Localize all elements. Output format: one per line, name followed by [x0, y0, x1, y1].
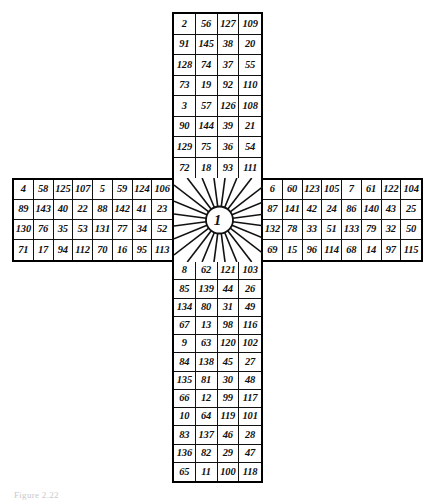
grid-cell-bottom-r3-c3: 31 — [218, 299, 240, 317]
grid-cell-top-r5-c4: 108 — [239, 96, 261, 117]
grid-cell-bottom-r10-c4: 28 — [239, 426, 261, 444]
grid-cell-left-r4-c2: 17 — [34, 240, 54, 260]
grid-cell-bottom-r10-c1: 83 — [174, 426, 196, 444]
grid-cell-top-r4-c3: 92 — [218, 76, 240, 97]
grid-cell-right-r3-c6: 79 — [362, 220, 382, 240]
grid-cell-bottom-r2-c4: 26 — [239, 280, 261, 298]
grid-cell-bottom-r6-c4: 27 — [239, 353, 261, 371]
grid-cell-right-r2-c3: 42 — [303, 200, 323, 220]
grid-cell-top-r2-c1: 91 — [174, 35, 196, 56]
grid-cell-right-r2-c1: 87 — [263, 200, 283, 220]
grid-cell-bottom-r9-c4: 101 — [239, 408, 261, 426]
grid-cell-right-r1-c6: 61 — [362, 180, 382, 200]
figure-caption: Figure 2.22 — [14, 490, 59, 500]
grid-cell-bottom-r8-c3: 99 — [218, 390, 240, 408]
grid-cell-bottom-r7-c4: 48 — [239, 372, 261, 390]
grid-cell-right-r1-c3: 123 — [303, 180, 323, 200]
grid-cell-right-r2-c8: 25 — [401, 200, 421, 220]
grid-cell-left-r1-c8: 106 — [152, 180, 172, 200]
grid-cell-right-r4-c2: 15 — [283, 240, 303, 260]
grid-cell-left-r2-c6: 142 — [113, 200, 133, 220]
grid-cell-bottom-r7-c1: 135 — [174, 372, 196, 390]
grid-cell-right-r4-c6: 14 — [362, 240, 382, 260]
grid-cell-right-r4-c3: 96 — [303, 240, 323, 260]
grid-cell-bottom-r8-c2: 12 — [196, 390, 218, 408]
grid-cell-bottom-r10-c2: 137 — [196, 426, 218, 444]
grid-cell-top-r6-c1: 90 — [174, 117, 196, 138]
grid-cell-right-r1-c1: 6 — [263, 180, 283, 200]
grid-cell-left-r3-c8: 52 — [152, 220, 172, 240]
cross-arm-bottom: 8621211038513944261348031496713981169631… — [172, 262, 263, 483]
grid-cell-bottom-r6-c2: 138 — [196, 353, 218, 371]
grid-cell-top-r3-c2: 74 — [196, 55, 218, 76]
grid-cell-right-r3-c7: 32 — [382, 220, 402, 240]
grid-cell-bottom-r9-c3: 119 — [218, 408, 240, 426]
cross-arm-top: 2561271099114538201287437557319921103571… — [172, 12, 263, 178]
grid-cell-left-r3-c5: 131 — [93, 220, 113, 240]
grid-cell-top-r4-c2: 19 — [196, 76, 218, 97]
grid-cell-right-r4-c4: 114 — [322, 240, 342, 260]
grid-cell-top-r5-c2: 57 — [196, 96, 218, 117]
grid-cell-bottom-r9-c2: 64 — [196, 408, 218, 426]
grid-cell-right-r2-c4: 24 — [322, 200, 342, 220]
grid-cell-left-r4-c7: 95 — [133, 240, 153, 260]
grid-cell-top-r5-c3: 126 — [218, 96, 240, 117]
grid-cell-top-r7-c4: 54 — [239, 137, 261, 158]
grid-cell-right-r2-c6: 140 — [362, 200, 382, 220]
grid-cell-bottom-r6-c3: 45 — [218, 353, 240, 371]
grid-cell-bottom-r11-c3: 29 — [218, 445, 240, 463]
grid-cell-right-r1-c2: 60 — [283, 180, 303, 200]
grid-cell-bottom-r1-c3: 121 — [218, 262, 240, 280]
grid-cell-left-r3-c4: 53 — [73, 220, 93, 240]
grid-cell-top-r2-c3: 38 — [218, 35, 240, 56]
grid-cell-right-r3-c8: 50 — [401, 220, 421, 240]
grid-cell-top-r3-c3: 37 — [218, 55, 240, 76]
grid-cell-right-r1-c5: 7 — [342, 180, 362, 200]
grid-cell-left-r2-c7: 41 — [133, 200, 153, 220]
grid-cell-left-r4-c8: 113 — [152, 240, 172, 260]
grid-cell-right-r2-c5: 86 — [342, 200, 362, 220]
sunburst-rays-icon — [174, 178, 265, 262]
grid-cell-bottom-r8-c4: 117 — [239, 390, 261, 408]
grid-cell-right-r3-c2: 78 — [283, 220, 303, 240]
grid-cell-top-r8-c3: 93 — [218, 158, 240, 179]
grid-cell-right-r4-c7: 97 — [382, 240, 402, 260]
grid-cell-top-r3-c1: 128 — [174, 55, 196, 76]
grid-cell-top-r4-c4: 110 — [239, 76, 261, 97]
grid-cell-left-r3-c7: 34 — [133, 220, 153, 240]
grid-cell-left-r3-c3: 35 — [54, 220, 74, 240]
grid-cell-right-r3-c5: 133 — [342, 220, 362, 240]
grid-cell-bottom-r3-c1: 134 — [174, 299, 196, 317]
grid-cell-right-r4-c8: 115 — [401, 240, 421, 260]
grid-cell-bottom-r1-c2: 62 — [196, 262, 218, 280]
grid-cell-left-r3-c1: 130 — [14, 220, 34, 240]
grid-cell-bottom-r3-c2: 80 — [196, 299, 218, 317]
grid-cell-top-r1-c2: 56 — [196, 14, 218, 35]
grid-cell-top-r7-c2: 75 — [196, 137, 218, 158]
grid-cell-left-r2-c4: 22 — [73, 200, 93, 220]
grid-cell-right-r4-c5: 68 — [342, 240, 362, 260]
grid-cell-top-r7-c1: 129 — [174, 137, 196, 158]
grid-cell-left-r4-c3: 94 — [54, 240, 74, 260]
grid-cell-top-r2-c4: 20 — [239, 35, 261, 56]
grid-cell-bottom-r4-c4: 116 — [239, 317, 261, 335]
grid-cell-left-r2-c1: 89 — [14, 200, 34, 220]
grid-cell-top-r4-c1: 73 — [174, 76, 196, 97]
grid-cell-right-r3-c4: 51 — [322, 220, 342, 240]
grid-cell-left-r4-c4: 112 — [73, 240, 93, 260]
grid-cell-top-r7-c3: 36 — [218, 137, 240, 158]
grid-cell-left-r1-c7: 124 — [133, 180, 153, 200]
grid-cell-top-r1-c4: 109 — [239, 14, 261, 35]
grid-cell-bottom-r12-c2: 11 — [196, 463, 218, 481]
grid-cell-left-r1-c2: 58 — [34, 180, 54, 200]
grid-cell-right-r4-c1: 69 — [263, 240, 283, 260]
grid-cell-top-r6-c3: 39 — [218, 117, 240, 138]
grid-cell-bottom-r5-c3: 120 — [218, 335, 240, 353]
grid-cell-top-r1-c1: 2 — [174, 14, 196, 35]
grid-cell-right-r1-c7: 122 — [382, 180, 402, 200]
grid-cell-bottom-r1-c4: 103 — [239, 262, 261, 280]
grid-cell-left-r2-c2: 143 — [34, 200, 54, 220]
grid-cell-left-r1-c1: 4 — [14, 180, 34, 200]
grid-cell-left-r4-c5: 70 — [93, 240, 113, 260]
grid-cell-right-r2-c7: 43 — [382, 200, 402, 220]
